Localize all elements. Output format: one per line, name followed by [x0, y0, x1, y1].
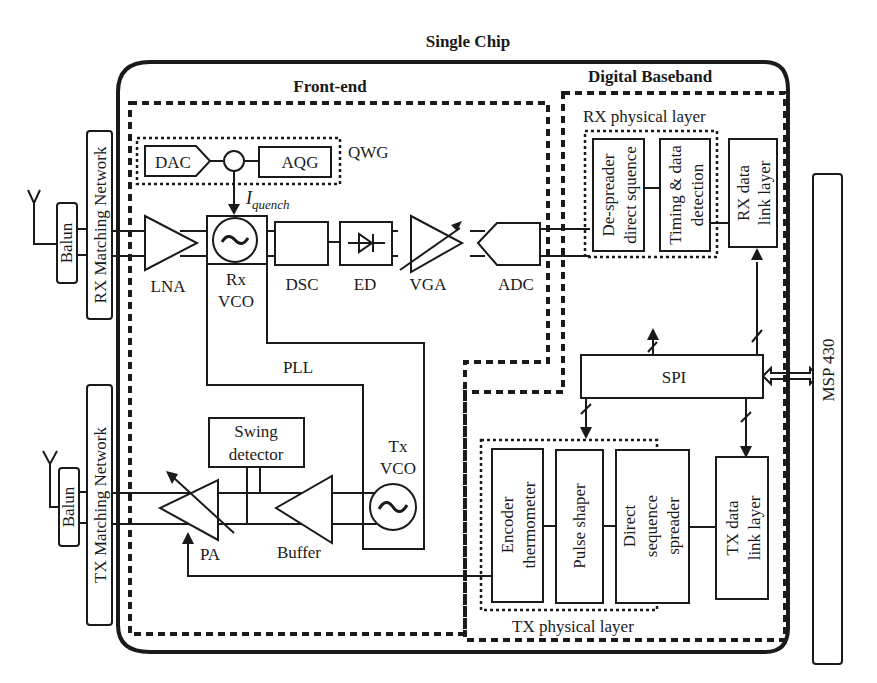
buffer-label: Buffer [277, 543, 321, 562]
lna-amplifier [145, 216, 197, 270]
spi-rx-link-arrowhead [751, 248, 763, 260]
rx-matching-network-label: RX Matching Network [91, 146, 110, 303]
encoder-label-1: Encoder [498, 496, 517, 553]
pa-bias-arrowhead [182, 532, 194, 544]
buffer-amplifier [276, 476, 332, 543]
rx-antenna-icon [28, 190, 58, 244]
dss-label-3: spreader [664, 497, 683, 555]
digital-baseband-label: Digital Baseband [588, 67, 713, 86]
tx-vco-label-2: VCO [380, 459, 416, 478]
despreader-label-2: direct squence [621, 146, 640, 244]
rx-vco-label-1: Rx [226, 270, 246, 289]
dac-label: DAC [155, 153, 191, 172]
lna-label: LNA [151, 277, 187, 296]
tx-link-label-1: TX data [723, 500, 742, 556]
dsc-block [275, 222, 328, 265]
spi-rx-phy-arrowhead [647, 328, 659, 340]
swing-detector-wires [247, 467, 260, 524]
chip-block-diagram: Single Chip Front-end Digital Baseband R… [0, 0, 877, 683]
despreader-label-1: De-spreader [599, 153, 618, 236]
adc-label: ADC [498, 275, 534, 294]
qwg-label: QWG [348, 143, 389, 162]
rx-vco-label-2: VCO [218, 292, 254, 311]
ed-label: ED [354, 275, 377, 294]
diagram-title: Single Chip [426, 32, 511, 51]
pulse-shaper-label: Pulse shaper [570, 483, 589, 569]
pa-control-arrowhead [166, 471, 178, 484]
aqg-label: AQG [282, 153, 319, 172]
tx-physical-layer-label: TX physical layer [512, 617, 634, 636]
spi-tx-phy-arrowhead [580, 427, 592, 439]
spi-label: SPI [662, 368, 687, 387]
dss-label-1: Direct [620, 504, 639, 547]
msp430-block [813, 174, 842, 664]
dsc-label: DSC [285, 275, 318, 294]
swing-label-2: detector [229, 445, 284, 464]
qwg-summer [224, 151, 244, 171]
pll-label: PLL [283, 358, 313, 377]
spi-msp-bidirectional-arrow [763, 368, 818, 384]
rx-link-label-1: RX data [734, 164, 753, 221]
tx-link-label-2: link layer [745, 495, 764, 560]
iquench-label: Iquench [245, 188, 290, 212]
vga-control-arrowhead [451, 221, 462, 231]
adc-block [478, 223, 540, 265]
tx-vco-label-1: Tx [389, 437, 408, 456]
msp430-label: MSP 430 [819, 338, 838, 401]
rx-physical-layer-label: RX physical layer [583, 107, 706, 126]
encoder-label-2: thermometer [520, 481, 539, 568]
pa-label: PA [200, 545, 221, 564]
tx-matching-network-label: TX Matching Network [91, 427, 110, 583]
timing-label-2: detection [688, 163, 707, 226]
iquench-arrowhead [228, 204, 240, 215]
dss-label-2: sequence [642, 495, 661, 557]
rx-link-label-2: link layer [755, 160, 774, 225]
vga-label: VGA [410, 275, 448, 294]
tx-balun-label: Balun [59, 486, 78, 527]
front-end-label: Front-end [293, 77, 367, 96]
pa-bias-feedback [188, 540, 492, 576]
timing-label-1: Timing & data [666, 145, 685, 245]
swing-label-1: Swing [234, 422, 278, 441]
rx-balun-label: Balun [57, 222, 76, 263]
